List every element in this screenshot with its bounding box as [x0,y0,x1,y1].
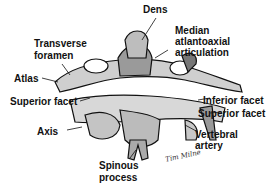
dens [125,31,148,58]
label-vertebral-1: Vertebral [195,129,238,140]
label-atlas: Atlas [14,73,38,84]
label-superior-facet-left: Superior facet [10,96,77,107]
label-superior-facet-right: Superior facet [198,108,265,119]
label-axis: Axis [37,126,58,137]
label-spinous-1: Spinous [99,160,138,171]
label-transverse-1: Transverse [34,38,87,49]
label-spinous-2: process [99,172,137,183]
label-median-1: Median [175,25,209,36]
label-inferior-facet: Inferior facet [203,95,264,106]
label-median-2: atlantoaxial [175,36,230,47]
label-dens: Dens [143,4,167,15]
label-median-3: articulation [175,47,229,58]
label-transverse-2: foramen [34,50,73,61]
